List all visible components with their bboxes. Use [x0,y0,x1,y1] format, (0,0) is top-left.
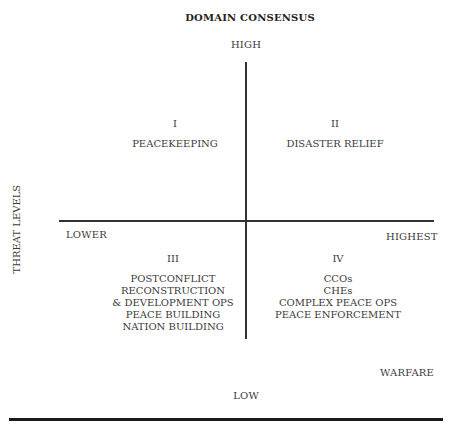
quadrant-item: POSTCONFLICT [103,273,243,285]
quadrant-1: I PEACEKEEPING [120,118,230,150]
corner-label-warfare: WARFARE [380,367,434,378]
quadrant-numeral: II [270,118,400,130]
quadrant-item: CCOs [268,273,408,285]
quadrant-item: COMPLEX PEACE OPS [268,297,408,309]
quadrant-numeral: III [103,253,243,265]
axis-label-left: LOWER [66,229,107,240]
axis-label-bottom: LOW [196,390,296,401]
diagram-title: DOMAIN CONSENSUS [150,12,350,23]
quadrant-item: RECONSTRUCTION [103,285,243,297]
quadrant-3: III POSTCONFLICT RECONSTRUCTION & DEVELO… [103,253,243,333]
quadrant-item: PEACE BUILDING [103,309,243,321]
vertical-axis [245,62,247,339]
quadrant-numeral: IV [268,253,408,265]
quadrant-item: PEACEKEEPING [120,138,230,150]
axis-label-top: HIGH [196,39,296,50]
quadrant-item: & DEVELOPMENT OPS [103,297,243,309]
quadrant-item: CHEs [268,285,408,297]
quadrant-item: PEACE ENFORCEMENT [268,309,408,321]
quadrant-item: DISASTER RELIEF [270,138,400,150]
axis-label-right: HIGHEST [386,231,438,242]
quadrant-4: IV CCOs CHEs COMPLEX PEACE OPS PEACE ENF… [268,253,408,321]
quadrant-2: II DISASTER RELIEF [270,118,400,150]
quadrant-numeral: I [120,118,230,130]
y-axis-label: THREAT LEVELS [11,194,22,274]
horizontal-axis [59,220,434,222]
bottom-rule [9,418,443,421]
quadrant-item: NATION BUILDING [103,321,243,333]
